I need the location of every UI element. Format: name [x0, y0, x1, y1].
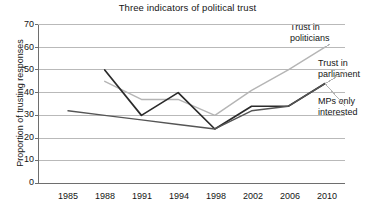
leader-line-2	[325, 84, 345, 106]
leader-line-1	[325, 72, 345, 84]
chart-figure: Three indicators of political trust Prop…	[0, 0, 375, 216]
annotation-leader-lines	[325, 44, 345, 106]
data-series	[68, 47, 325, 129]
series-line-trust-in-politicians	[105, 47, 325, 115]
plot-area	[0, 0, 375, 216]
gridlines	[38, 25, 345, 184]
series-line-mps-only-interested	[68, 84, 325, 129]
